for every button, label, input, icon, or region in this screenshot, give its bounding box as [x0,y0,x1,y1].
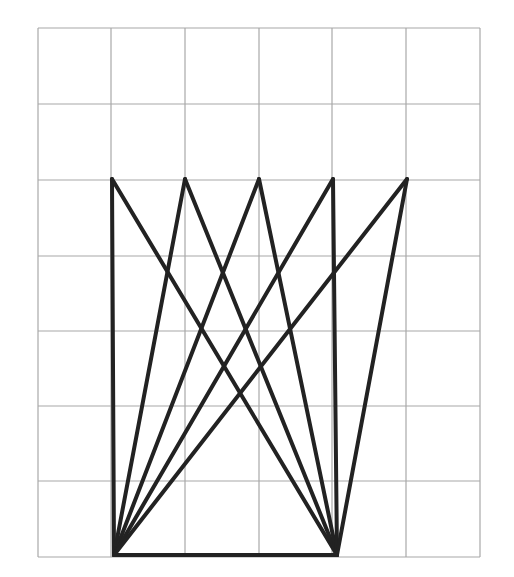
grid-diagram [0,0,514,577]
figure-segment [114,179,259,555]
background-grid [38,28,480,557]
figure-segment [185,179,337,555]
figure-segment [112,179,114,555]
figure-segment [333,179,337,555]
figure-segment [114,179,185,555]
figure-segment [337,179,407,555]
